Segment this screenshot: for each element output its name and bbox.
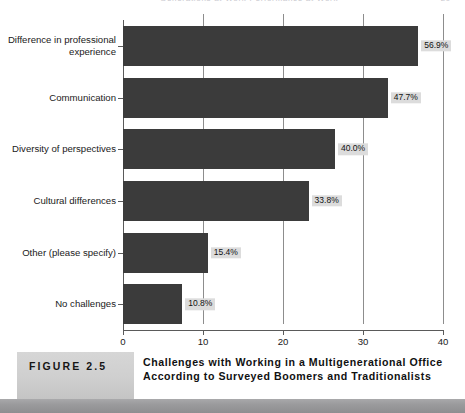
bar-row: 33.8% xyxy=(123,181,443,221)
category-label: Diversity of perspectives xyxy=(4,143,116,155)
x-tick-10 xyxy=(203,330,204,335)
bar-row: 10.8% xyxy=(123,284,443,324)
category-label: No challenges xyxy=(4,298,116,310)
x-tick-label-40: 40 xyxy=(428,336,458,347)
y-tick xyxy=(118,304,123,305)
bar-row: 56.9% xyxy=(123,26,443,66)
running-head-page-number: 29 xyxy=(441,0,451,3)
bar-row: 15.4% xyxy=(123,233,443,273)
x-tick-label-20: 20 xyxy=(268,336,298,347)
y-tick xyxy=(118,98,123,99)
running-head: Generations at Work Performance at Work … xyxy=(0,0,465,8)
y-tick xyxy=(118,253,123,254)
bar-row: 47.7% xyxy=(123,78,443,118)
bar-value-label: 15.4% xyxy=(211,247,241,258)
bar[interactable] xyxy=(123,26,418,66)
bar-chart: 56.9%47.7%40.0%33.8%15.4%10.8% Differenc… xyxy=(0,14,465,350)
y-tick xyxy=(118,149,123,150)
y-tick xyxy=(118,201,123,202)
x-tick-30 xyxy=(363,330,364,335)
x-tick-20 xyxy=(283,330,284,335)
running-head-title: Generations at Work Performance at Work xyxy=(160,0,338,3)
category-label: Other (please specify) xyxy=(4,247,116,259)
gridline-40 xyxy=(443,14,444,324)
bar-value-label: 47.7% xyxy=(391,92,421,103)
figure-caption-text: Challenges with Working in a Multigenera… xyxy=(143,355,453,383)
bar-value-label: 10.8% xyxy=(185,298,215,309)
page-footer-band xyxy=(0,399,465,413)
bar-value-label: 56.9% xyxy=(421,40,451,51)
figure-caption: FIGURE 2.5 Challenges with Working in a … xyxy=(0,352,465,399)
figure-number-badge: FIGURE 2.5 xyxy=(17,352,134,399)
x-tick-label-10: 10 xyxy=(188,336,218,347)
category-label: Difference in professional experience xyxy=(4,34,116,57)
bar-row: 40.0% xyxy=(123,129,443,169)
figure-number-label: FIGURE 2.5 xyxy=(29,360,107,372)
bar[interactable] xyxy=(123,129,335,169)
bar[interactable] xyxy=(123,78,388,118)
category-label: Communication xyxy=(4,92,116,104)
bar[interactable] xyxy=(123,181,309,221)
x-tick-40 xyxy=(443,330,444,335)
bar[interactable] xyxy=(123,284,182,324)
x-tick-label-0: 0 xyxy=(108,336,138,347)
bar[interactable] xyxy=(123,233,208,273)
x-tick-0 xyxy=(123,330,124,335)
bar-value-label: 33.8% xyxy=(312,195,342,206)
x-tick-label-30: 30 xyxy=(348,336,378,347)
bar-value-label: 40.0% xyxy=(338,143,368,154)
y-tick xyxy=(118,46,123,47)
category-label: Cultural differences xyxy=(4,195,116,207)
